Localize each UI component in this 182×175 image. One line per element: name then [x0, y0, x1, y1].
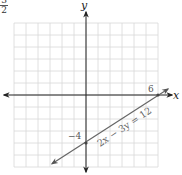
- x-axis-label: x: [173, 89, 180, 102]
- y-intercept-point: [84, 141, 87, 144]
- equation-label: 2x − 3y = 12: [95, 105, 153, 149]
- coordinate-plane: y x 6 −4 2x − 3y = 12: [0, 0, 182, 175]
- x-intercept-label: 6: [148, 84, 154, 94]
- x-intercept-point: [156, 93, 159, 96]
- y-intercept-label: −4: [68, 131, 82, 141]
- y-axis-label: y: [80, 0, 88, 12]
